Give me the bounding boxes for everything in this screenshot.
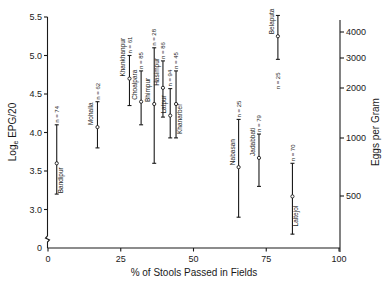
y2-tick-label: 500 [346, 191, 361, 201]
sample-size-label: n = 85 [138, 51, 144, 69]
y2-axis-title: Eggs per Gram [370, 98, 381, 166]
sample-size-label: n = 62 [95, 82, 101, 100]
sample-size-label: n = 79 [256, 115, 262, 133]
x-tick-label: 25 [116, 254, 126, 264]
site-label: Jadabbati [249, 128, 256, 156]
mean-marker [153, 102, 156, 105]
site-label: Belaputa [268, 8, 276, 34]
error-bar-series: Bandipurn = 74Mohallan = 62Khankhanpurn … [54, 8, 301, 234]
site-label: Khanarber [176, 103, 183, 134]
sample-size-label: n = 70 [290, 144, 296, 162]
error-bar-jadabbati: Jadabbatin = 79 [249, 115, 262, 187]
mean-marker [55, 162, 58, 165]
y-axis-ticks: 5.55.04.54.03.53.0 [29, 12, 47, 215]
y-zero-label: 0 [37, 243, 42, 253]
y2-tick-label: 3000 [346, 53, 366, 63]
chart: 5.55.04.54.03.53.0 0255075100 4000300020… [0, 0, 392, 284]
y-axis-title-rest: EPG/20 [7, 102, 18, 140]
error-bar-nabasan: Nabasann = 25 [229, 100, 242, 217]
mean-marker [276, 35, 279, 38]
error-bar-choalpara: Choalparan = 85 [131, 51, 144, 124]
y2-tick-label: 2000 [346, 83, 366, 93]
site-label: Mohalla [87, 102, 94, 125]
site-label: Hasimpur [153, 57, 161, 86]
error-bar-bandipur: Bandipurn = 74 [54, 105, 65, 194]
site-label: Nabasan [229, 139, 236, 165]
sample-size-label: n = 25 [236, 100, 242, 118]
mean-marker [237, 166, 240, 169]
error-bar-belaputa: Belaputan = 25 [268, 8, 281, 89]
mean-marker [291, 195, 294, 198]
error-bar-khanarber: Khanarbern = 45 [173, 51, 183, 138]
error-bar-mohalla: Mohallan = 62 [87, 82, 100, 148]
mean-marker [140, 100, 143, 103]
axis-break-icon [46, 236, 50, 248]
y-tick-label: 3.5 [29, 166, 42, 176]
site-label: Latpur [160, 94, 168, 113]
error-bar-bhimpur: Bhimpurn = 28 [144, 28, 157, 163]
y2-tick-label: 1000 [346, 133, 366, 143]
mean-marker [257, 156, 260, 159]
right-axis-ticks: 4000300020001000500 [340, 27, 366, 201]
x-axis-title: % of Stools Passed in Fields [131, 267, 258, 278]
site-label: Bhimpur [144, 77, 152, 102]
sample-size-label: n = 74 [54, 105, 60, 123]
site-label: Bandipur [57, 166, 65, 193]
x-tick-label: 100 [331, 254, 346, 264]
error-bar-latpur: Latpurn = 94 [160, 69, 173, 138]
site-label: Choalpara [131, 69, 139, 99]
site-label: Laltejol [292, 205, 300, 226]
y-axis-title-log: Log [7, 145, 18, 162]
sample-size-label: n = 28 [151, 28, 157, 46]
y2-tick-label: 4000 [346, 27, 366, 37]
y-tick-label: 5.0 [29, 51, 42, 61]
x-axis-ticks: 0255075100 [45, 248, 346, 264]
sample-size-label: n = 94 [167, 69, 173, 87]
y-tick-label: 4.5 [29, 89, 42, 99]
mean-marker [169, 114, 172, 117]
y-tick-label: 3.0 [29, 205, 42, 215]
sample-size-label: n = 61 [127, 36, 133, 54]
y-tick-label: 5.5 [29, 12, 42, 22]
y-tick-label: 4.0 [29, 128, 42, 138]
error-bar-laltejol: Laltejoln = 70 [290, 144, 301, 234]
x-tick-label: 75 [261, 254, 271, 264]
sample-size-label: n = 25 [275, 72, 281, 90]
sample-size-label: n = 86 [160, 41, 166, 59]
y-axis-title: Loge EPG/20 [7, 102, 19, 161]
mean-marker [161, 86, 164, 89]
sample-size-label: n = 45 [173, 51, 179, 69]
x-tick-label: 50 [188, 254, 198, 264]
mean-marker [96, 126, 99, 129]
x-tick-label: 0 [45, 254, 50, 264]
